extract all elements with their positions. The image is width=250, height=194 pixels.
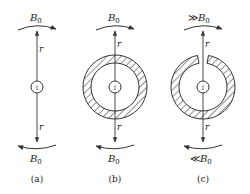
field-label-top: ≫B0 [188, 12, 210, 25]
panel-c: ≫B0 r I r ≪B0 (c) [171, 12, 235, 184]
caption-b: (b) [109, 174, 122, 184]
radius-label-top: r [117, 39, 122, 49]
radius-label-bottom: r [117, 122, 122, 132]
caption-c: (c) [197, 174, 209, 184]
field-label-bottom: B0 [29, 153, 42, 166]
field-arc-bottom [96, 145, 134, 149]
shielding-diagram: B0 r I r B0 (a) B0 r I r B0 (b) ≫B0 r I [0, 0, 250, 194]
panel-b: B0 r I r B0 (b) [83, 12, 147, 184]
radius-label-top: r [205, 39, 210, 49]
field-arc-bottom [18, 145, 56, 149]
field-arc-top [184, 26, 222, 30]
field-arc-top [96, 26, 134, 30]
field-arc-top [18, 26, 56, 30]
field-arc-bottom [184, 145, 222, 149]
radius-label-bottom: r [205, 122, 210, 132]
caption-a: (a) [31, 174, 43, 184]
field-label-bottom: ≪B0 [190, 153, 212, 166]
radius-label-top: r [39, 44, 44, 54]
field-label-top: B0 [107, 12, 120, 25]
panel-a: B0 r I r B0 (a) [18, 12, 56, 184]
field-label-top: B0 [29, 12, 42, 25]
field-label-bottom: B0 [107, 153, 120, 166]
radius-label-bottom: r [39, 122, 44, 132]
